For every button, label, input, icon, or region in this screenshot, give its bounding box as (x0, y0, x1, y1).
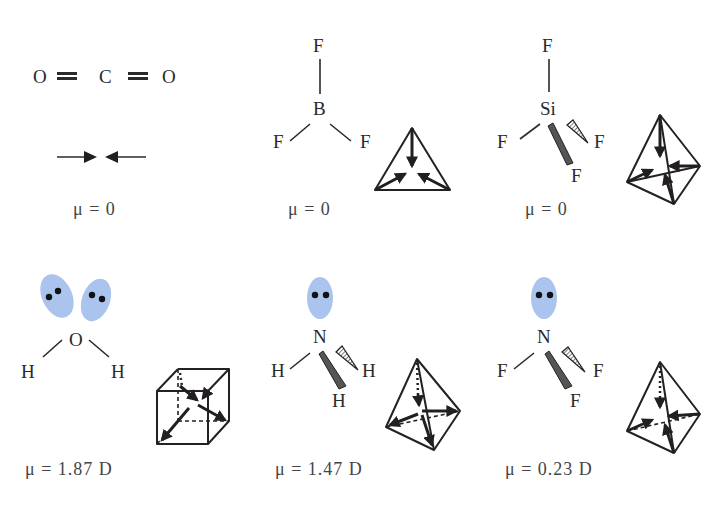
atom-h-right: H (362, 360, 376, 381)
cube-vector-icon (157, 369, 229, 444)
atom-n: N (313, 326, 327, 347)
atom-o-right: O (162, 66, 176, 87)
molecule-nf3: N F F F μ = 0.23 D (497, 277, 700, 479)
molecule-bf3: F B F F μ = 0 (273, 35, 450, 219)
atom-b: B (313, 98, 326, 119)
atom-f-left: F (497, 131, 508, 152)
atom-o-left: O (33, 66, 47, 87)
pyramidal-vector-icon (627, 362, 700, 453)
atom-h-bottom: H (332, 390, 346, 411)
lone-pair (531, 277, 557, 319)
molecule-sif4: F Si F F F μ = 0 (497, 35, 700, 219)
atom-f-bottom: F (570, 390, 581, 411)
atom-o: O (69, 329, 83, 350)
dipole-moment-sif4: μ = 0 (525, 199, 568, 219)
atom-f-left: F (273, 131, 284, 152)
dipole-moment-bf3: μ = 0 (288, 199, 331, 219)
tetrahedral-vector-icon (627, 115, 700, 204)
dipole-moment-h2o: μ = 1.87 D (25, 459, 113, 479)
atom-f-right: F (593, 360, 604, 381)
dipole-figure: O C O μ = 0 F B F F (0, 0, 728, 506)
atom-f-right: F (594, 131, 605, 152)
dipole-moment-nh3: μ = 1.47 D (275, 459, 363, 479)
atom-h-left: H (21, 361, 35, 382)
atom-h-left: H (271, 360, 285, 381)
double-bond-right (128, 72, 148, 80)
atom-h-right: H (111, 361, 125, 382)
atom-n: N (537, 326, 551, 347)
opposing-dipole-arrows-icon (57, 151, 146, 163)
molecule-co2: O C O μ = 0 (33, 66, 176, 219)
pyramidal-vector-icon (386, 359, 460, 450)
hashed-wedge-bond (567, 120, 588, 143)
atom-c: C (99, 66, 112, 87)
atom-f-top: F (542, 35, 553, 56)
hashed-wedge-bond (562, 347, 585, 372)
dipole-moment-co2: μ = 0 (73, 199, 116, 219)
molecule-nh3: N H H H μ = 1.47 D (271, 277, 460, 479)
atom-si: Si (540, 98, 556, 119)
hashed-wedge-bond (336, 346, 358, 370)
atom-f-right: F (360, 131, 371, 152)
atom-f-left: F (497, 360, 508, 381)
atom-f-top: F (313, 35, 324, 56)
double-bond-left (57, 72, 77, 80)
solid-wedge-bond (548, 123, 573, 165)
lone-pair (307, 277, 333, 319)
trigonal-planar-vector-icon (375, 128, 450, 190)
atom-f-bottom: F (571, 165, 582, 186)
lone-pair-left (34, 269, 81, 323)
molecule-h2o: O H H μ = 1.87 D (21, 269, 229, 479)
dipole-moment-nf3: μ = 0.23 D (505, 459, 593, 479)
lone-pair-right (75, 275, 116, 326)
